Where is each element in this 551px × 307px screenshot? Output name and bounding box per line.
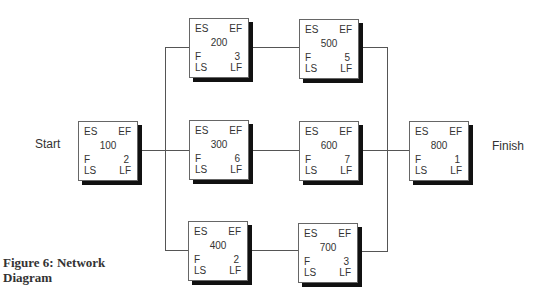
lf-label: LF — [340, 63, 352, 74]
activity-id: 200 — [190, 37, 248, 48]
edge-500-join — [359, 47, 387, 48]
duration-value: 1 — [454, 154, 460, 165]
lf-label: LF — [229, 265, 241, 276]
es-label: ES — [415, 126, 428, 137]
es-label: ES — [84, 126, 97, 137]
node-box: ES EF 500 F 5 LS LF — [299, 19, 359, 79]
activity-id: 500 — [300, 38, 358, 49]
activity-node-400: ES EF 400 F 2 LS LF — [188, 221, 248, 281]
start-label: Start — [35, 137, 60, 151]
lf-label: LF — [339, 267, 351, 278]
activity-id: 300 — [190, 139, 248, 150]
ef-label: EF — [228, 226, 241, 237]
node-box: ES EF 800 F 1 LS LF — [409, 121, 469, 181]
activity-id: 800 — [410, 140, 468, 151]
activity-id: 700 — [299, 242, 357, 253]
ls-label: LS — [195, 164, 207, 175]
activity-node-200: ES EF 200 F 3 LS LF — [189, 18, 249, 78]
left-vertical-connector — [165, 47, 166, 251]
lf-label: LF — [230, 62, 242, 73]
ef-label: EF — [339, 126, 352, 137]
edge-200-500 — [249, 47, 299, 48]
f-label: F — [305, 154, 311, 165]
ls-label: LS — [195, 62, 207, 73]
node-box: ES EF 200 F 3 LS LF — [189, 18, 249, 78]
edge-400-700 — [248, 250, 298, 251]
edge-to-400 — [165, 250, 189, 251]
duration-value: 2 — [233, 254, 239, 265]
es-label: ES — [304, 228, 317, 239]
duration-value: 5 — [344, 52, 350, 63]
es-label: ES — [305, 126, 318, 137]
lf-label: LF — [450, 165, 462, 176]
edge-100-split — [139, 150, 189, 151]
ls-label: LS — [415, 165, 427, 176]
lf-label: LF — [340, 165, 352, 176]
duration-value: 6 — [234, 153, 240, 164]
activity-node-300: ES EF 300 F 6 LS LF — [189, 120, 249, 180]
ls-label: LS — [305, 165, 317, 176]
ef-label: EF — [229, 125, 242, 136]
activity-node-500: ES EF 500 F 5 LS LF — [299, 19, 359, 79]
activity-id: 100 — [79, 140, 137, 151]
edge-600-join — [359, 150, 409, 151]
activity-node-100: ES EF 100 F 2 LS LF — [78, 121, 138, 181]
es-label: ES — [305, 24, 318, 35]
activity-node-800: ES EF 800 F 1 LS LF — [409, 121, 469, 181]
ef-label: EF — [118, 126, 131, 137]
node-box: ES EF 400 F 2 LS LF — [188, 221, 248, 281]
es-label: ES — [195, 125, 208, 136]
es-label: ES — [195, 23, 208, 34]
ef-label: EF — [449, 126, 462, 137]
activity-id: 400 — [189, 240, 247, 251]
ls-label: LS — [194, 265, 206, 276]
f-label: F — [304, 256, 310, 267]
es-label: ES — [194, 226, 207, 237]
f-label: F — [84, 154, 90, 165]
lf-label: LF — [119, 165, 131, 176]
ef-label: EF — [338, 228, 351, 239]
ls-label: LS — [304, 267, 316, 278]
f-label: F — [305, 52, 311, 63]
edge-700-join — [358, 251, 387, 252]
ls-label: LS — [305, 63, 317, 74]
ef-label: EF — [339, 24, 352, 35]
duration-value: 3 — [234, 51, 240, 62]
lf-label: LF — [230, 164, 242, 175]
f-label: F — [195, 51, 201, 62]
right-vertical-connector — [387, 47, 388, 252]
activity-node-700: ES EF 700 F 3 LS LF — [298, 223, 358, 283]
ls-label: LS — [84, 165, 96, 176]
activity-node-600: ES EF 600 F 7 LS LF — [299, 121, 359, 181]
f-label: F — [415, 154, 421, 165]
f-label: F — [194, 254, 200, 265]
edge-to-200 — [165, 47, 189, 48]
finish-label: Finish — [492, 139, 524, 153]
duration-value: 7 — [344, 154, 350, 165]
activity-id: 600 — [300, 140, 358, 151]
ef-label: EF — [229, 23, 242, 34]
figure-caption: Figure 6: Network Diagram — [3, 255, 153, 285]
node-box: ES EF 300 F 6 LS LF — [189, 120, 249, 180]
f-label: F — [195, 153, 201, 164]
edge-300-600 — [249, 150, 299, 151]
node-box: ES EF 700 F 3 LS LF — [298, 223, 358, 283]
duration-value: 3 — [343, 256, 349, 267]
node-box: ES EF 600 F 7 LS LF — [299, 121, 359, 181]
duration-value: 2 — [123, 154, 129, 165]
node-box: ES EF 100 F 2 LS LF — [78, 121, 138, 181]
